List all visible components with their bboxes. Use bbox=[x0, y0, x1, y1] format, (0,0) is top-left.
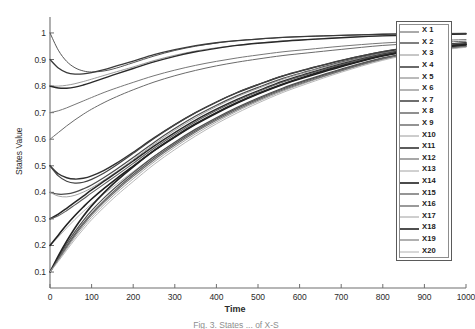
legend-item-label: X15 bbox=[422, 188, 436, 197]
legend-item[interactable]: X20 bbox=[397, 244, 451, 256]
legend-entries: X 1X 2X 3X 4X 5X 6X 7X 8X 9X10X11X12X13X… bbox=[397, 24, 451, 256]
legend-item-label: X 1 bbox=[422, 25, 434, 34]
legend-item-label: X20 bbox=[422, 246, 436, 255]
x-tick-label: 100 bbox=[85, 292, 99, 302]
x-tick-label: 0 bbox=[48, 292, 53, 302]
legend-item-label: X16 bbox=[422, 199, 436, 208]
x-tick-label: 500 bbox=[251, 292, 265, 302]
x-tick-label: 900 bbox=[417, 292, 431, 302]
legend-item-label: X17 bbox=[422, 211, 436, 220]
legend-item-label: X10 bbox=[422, 130, 436, 139]
y-tick-label: 0.6 bbox=[24, 134, 46, 144]
y-tick-label: 0.2 bbox=[24, 240, 46, 250]
y-tick-label: 0.4 bbox=[24, 187, 46, 197]
legend-item-label: X 7 bbox=[422, 95, 434, 104]
x-tick-label: 300 bbox=[168, 292, 182, 302]
y-tick-label: 0.5 bbox=[24, 161, 46, 171]
y-tick-label: 0.3 bbox=[24, 214, 46, 224]
legend-item-label: X19 bbox=[422, 234, 436, 243]
x-tick-label: 700 bbox=[334, 292, 348, 302]
legend-item-label: X18 bbox=[422, 222, 436, 231]
legend-item-label: X11 bbox=[422, 141, 435, 150]
legend[interactable]: X 1X 2X 3X 4X 5X 6X 7X 8X 9X10X11X12X13X… bbox=[396, 21, 452, 261]
y-tick-marks bbox=[50, 33, 54, 272]
x-tick-label: 200 bbox=[126, 292, 140, 302]
x-tick-label: 800 bbox=[376, 292, 390, 302]
y-tick-label: 0.8 bbox=[24, 81, 46, 91]
legend-item-label: X 9 bbox=[422, 118, 434, 127]
legend-item-label: X14 bbox=[422, 176, 436, 185]
y-tick-label: 1 bbox=[24, 28, 46, 38]
legend-item-label: X12 bbox=[422, 153, 436, 162]
legend-item-label: X 2 bbox=[422, 37, 434, 46]
legend-item-label: X 5 bbox=[422, 72, 434, 81]
y-tick-label: 0.1 bbox=[24, 267, 46, 277]
y-tick-label: 0.9 bbox=[24, 55, 46, 65]
x-tick-label: 400 bbox=[209, 292, 223, 302]
x-tick-marks bbox=[50, 284, 466, 288]
legend-item-label: X 6 bbox=[422, 83, 434, 92]
legend-item-label: X 8 bbox=[422, 106, 434, 115]
x-axis-title: Time bbox=[225, 304, 246, 314]
x-tick-label: 1000 bbox=[457, 292, 475, 302]
legend-line-icon bbox=[400, 241, 419, 259]
y-axis-title: States Value bbox=[14, 127, 24, 175]
legend-item-label: X 4 bbox=[422, 60, 434, 69]
y-tick-label: 0.7 bbox=[24, 108, 46, 118]
legend-item-label: X13 bbox=[422, 164, 436, 173]
figure-caption: Fig. 3. States ... of X-S bbox=[193, 320, 279, 329]
x-tick-label: 600 bbox=[293, 292, 307, 302]
legend-item-label: X 3 bbox=[422, 48, 434, 57]
